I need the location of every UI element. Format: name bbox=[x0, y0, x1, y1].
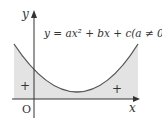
y-axis-arrow-icon bbox=[31, 10, 37, 18]
origin-label: O bbox=[22, 103, 31, 116]
y-axis-label: y bbox=[21, 7, 29, 21]
sign-right: + bbox=[112, 82, 122, 96]
sign-left: + bbox=[20, 79, 30, 93]
parabola-diagram: y x O y = ax² + bx + c(a ≠ 0) + + bbox=[0, 0, 162, 125]
x-axis-label: x bbox=[129, 101, 136, 115]
equation-label: y = ax² + bx + c(a ≠ 0) bbox=[43, 27, 162, 39]
